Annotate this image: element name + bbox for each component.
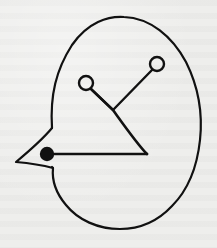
head-outline: [52, 17, 201, 229]
triangle-side-line: [91, 89, 147, 154]
head-diagram: [0, 0, 217, 248]
left-stalk-line: [91, 89, 113, 110]
left-stalk-circle-icon: [79, 76, 93, 90]
right-stalk-circle-icon: [150, 57, 164, 71]
eye-dot-icon: [40, 147, 54, 161]
scanned-page: [0, 0, 217, 248]
right-stalk-line: [113, 70, 152, 110]
